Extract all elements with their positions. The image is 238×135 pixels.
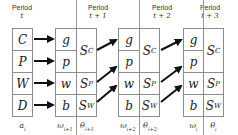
arrow-diagonal-icon [97, 67, 116, 82]
arrow-group-a-to-omega1 [34, 39, 53, 105]
arrow-diagonal-icon [161, 40, 181, 50]
arrow-group-theta1-to-omega2 [97, 40, 116, 102]
arrow-diagonal-icon [161, 67, 181, 82]
arrow-diagonal-icon [161, 86, 181, 102]
arrows-layer [0, 0, 238, 135]
arrow-diagonal-icon [97, 86, 116, 102]
arrow-diagonal-icon [97, 40, 116, 50]
arrow-group-theta2-to-omega3 [161, 40, 181, 102]
